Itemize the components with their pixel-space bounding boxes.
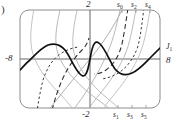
- curve-label-s5: s5: [141, 111, 147, 119]
- curve-label-s3: s3: [127, 111, 133, 119]
- tick-label-left: -8: [5, 54, 13, 63]
- axis-label-j1-sub: 1: [170, 46, 173, 52]
- curve-label-s4-sub: 4: [148, 4, 151, 10]
- tick-label-bottom: -2: [82, 110, 90, 119]
- axis-label-j1: J1: [166, 43, 172, 51]
- curve-label-s0-sub: 0: [120, 4, 123, 10]
- curve-label-s2-sub: 2: [134, 4, 137, 10]
- curve-label-s2: s2: [131, 1, 137, 9]
- curve-label-s1: s1: [113, 111, 119, 119]
- curve-label-s0: s0: [117, 1, 123, 9]
- tick-label-top: 2: [86, 0, 91, 9]
- tick-label-right: 8: [166, 56, 171, 65]
- curve-label-s5-sub: 5: [144, 114, 147, 120]
- curve-label-s4: s4: [145, 1, 151, 9]
- curve-label-s3-sub: 3: [130, 114, 133, 120]
- figure-root: ): [0, 0, 183, 124]
- plot-canvas: [0, 0, 183, 124]
- curve-label-s1-sub: 1: [116, 114, 119, 120]
